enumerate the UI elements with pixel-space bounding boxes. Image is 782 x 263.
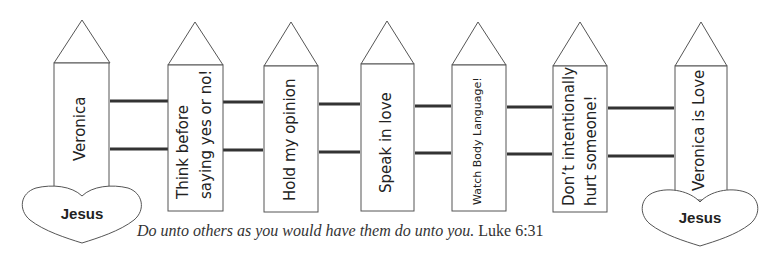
heart-right-label: Jesus [660,209,740,226]
picket-2-text-line-2: saying yes or no! [199,70,214,199]
picket-point [452,22,506,65]
picket-5-text: Watch Body Language! [472,77,483,205]
picket-point [553,22,607,66]
scripture-caption: Do unto others as you would have them do… [137,222,544,240]
picket-fence-diagram: Veronica Think before saying yes or no! … [0,0,782,263]
picket-7-text: Veronica is Love [692,70,707,191]
picket-2-text-line-1: Think before [176,105,191,199]
picket-point [361,21,414,64]
heart-left-label: Jesus [42,205,122,222]
picket-4-text: Speak in love [379,92,394,193]
picket-6-text-line-1: Don’t intentionally [562,67,577,206]
picket-point [264,22,318,66]
picket-point [675,22,727,66]
caption-reference: Luke 6:31 [478,222,543,239]
picket-1-text: Veronica [73,97,88,161]
picket-3-text: Hold my opinion [283,79,298,201]
picket-6-text-line-2: hurt someone! [584,95,599,206]
picket-point [54,20,110,63]
picket-point [168,22,223,65]
caption-quote: Do unto others as you would have them do… [137,222,474,239]
